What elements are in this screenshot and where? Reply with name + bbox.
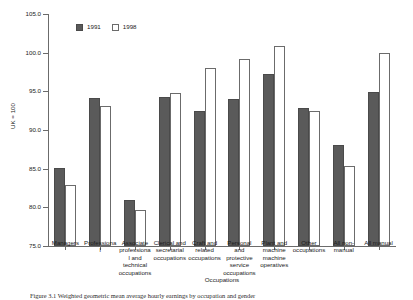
y-tick-label: 75.0: [29, 243, 41, 249]
bar: [298, 108, 309, 246]
x-tick-label: Plant and machine machine operatives: [258, 239, 291, 269]
bar: [194, 111, 205, 246]
y-tick-label: 95.0: [29, 88, 41, 94]
x-tick-label: Other occupations: [293, 239, 326, 254]
y-tick: [43, 130, 48, 131]
x-tick-label: All manual: [362, 239, 395, 246]
x-tick-label: Craft and related occupations: [188, 239, 221, 261]
y-axis-title: UK = 100: [9, 103, 16, 129]
figure-caption: Figure 3.1 Weighted geometric mean avera…: [30, 291, 390, 300]
y-tick-label: 85.0: [29, 166, 41, 172]
bar: [368, 92, 379, 246]
x-tick: [379, 246, 380, 250]
y-tick-label: 80.0: [29, 204, 41, 210]
x-tick-label: Clerical and secretarial occupations: [153, 239, 186, 261]
bar: [54, 168, 65, 246]
y-tick: [43, 91, 48, 92]
bar: [100, 106, 111, 246]
x-tick-label: Associate professional and technical occ…: [119, 239, 152, 276]
y-tick: [43, 246, 48, 247]
bar: [309, 111, 320, 246]
x-tick-label: Managers: [49, 239, 82, 246]
bar: [170, 93, 181, 246]
y-tick: [43, 169, 48, 170]
y-axis-line: [48, 14, 49, 246]
bar: [239, 59, 250, 246]
x-tick-label: Professional: [84, 239, 117, 254]
x-tick-label: All non-manual: [327, 239, 360, 254]
bar: [65, 185, 76, 246]
x-tick: [65, 246, 66, 250]
bar: [344, 166, 355, 246]
bar: [228, 99, 239, 246]
bar: [89, 98, 100, 246]
y-tick-label: 100.0: [26, 50, 41, 56]
plot-area: 75.080.085.090.095.0100.0105.0: [48, 14, 396, 246]
x-tick-label: Personal and protective service occupati…: [223, 239, 256, 276]
bar: [159, 97, 170, 246]
y-tick: [43, 53, 48, 54]
bar: [379, 53, 390, 246]
bar: [205, 68, 216, 246]
y-tick-label: 105.0: [26, 11, 41, 17]
bar: [263, 74, 274, 246]
y-tick: [43, 207, 48, 208]
bar: [274, 46, 285, 246]
y-tick: [43, 14, 48, 15]
y-tick-label: 90.0: [29, 127, 41, 133]
bar: [333, 145, 344, 246]
x-axis-title: Occupations: [48, 276, 396, 283]
bar-chart: 1991 1998 UK = 100 75.080.085.090.095.01…: [0, 0, 413, 300]
